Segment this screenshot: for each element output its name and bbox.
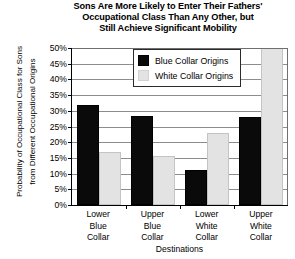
- y-axis-tick-label: 5%: [55, 184, 67, 194]
- y-axis-tick: [68, 158, 72, 159]
- y-axis-tick: [68, 48, 72, 49]
- bar: [77, 105, 99, 205]
- x-axis-category-label-line: Upper: [125, 209, 179, 221]
- y-axis-tick: [68, 127, 72, 128]
- y-axis-tick: [68, 95, 72, 96]
- x-axis-category-label-line: Blue: [71, 221, 125, 233]
- bar: [185, 170, 207, 205]
- x-axis-category-label-line: Lower: [71, 209, 125, 221]
- chart-title-line-3: Still Achieve Significant Mobility: [44, 23, 292, 34]
- y-axis-tick-label: 20%: [50, 137, 67, 147]
- x-axis-category-label-line: Collar: [125, 232, 179, 244]
- legend-entry: Blue Collar Origins: [138, 53, 233, 68]
- y-axis-tick: [68, 189, 72, 190]
- y-axis-tick-label: 40%: [50, 74, 67, 84]
- chart-title-line-2: Occupational Class Than Any Other, but: [44, 12, 292, 23]
- y-axis-tick-label: 0%: [55, 200, 67, 210]
- bar: [99, 152, 121, 205]
- bar-group: [234, 48, 288, 205]
- legend-entry: White Collar Origins: [138, 68, 233, 83]
- y-axis-tick: [68, 111, 72, 112]
- x-axis-category-label: UpperWhiteCollar: [234, 209, 288, 245]
- y-axis-tick-label: 35%: [50, 90, 67, 100]
- legend-swatch-blue-collar: [138, 55, 149, 66]
- bar: [131, 116, 153, 205]
- legend-entry-label: Blue Collar Origins: [155, 56, 228, 66]
- legend-entry-label: White Collar Origins: [155, 71, 233, 81]
- x-axis-category-label: LowerBlueCollar: [71, 209, 125, 245]
- bar: [153, 156, 175, 205]
- y-axis-tick-label: 15%: [50, 153, 67, 163]
- bar-group: [72, 48, 126, 205]
- y-axis-tick: [68, 205, 72, 206]
- y-axis-tick-label: 30%: [50, 106, 67, 116]
- y-axis-title: Probability of Occupational Class for So…: [0, 34, 26, 209]
- y-axis-tick: [68, 174, 72, 175]
- bar: [261, 48, 283, 205]
- x-axis-category-label-line: White: [180, 221, 234, 233]
- x-axis-category-label: UpperBlueCollar: [125, 209, 179, 245]
- x-axis-category-label-line: Collar: [234, 232, 288, 244]
- y-axis-tick: [68, 64, 72, 65]
- plot-right-border: [287, 48, 288, 205]
- y-axis-tick-label: 45%: [50, 59, 67, 69]
- chart-title: Sons Are More Likely to Enter Their Fath…: [44, 1, 292, 35]
- bar: [207, 133, 229, 205]
- x-axis-category-label-line: Lower: [180, 209, 234, 221]
- x-axis-category-label-line: Collar: [180, 232, 234, 244]
- x-axis-title: Destinations: [71, 244, 288, 254]
- y-axis-tick-label: 50%: [50, 43, 67, 53]
- bar-chart: Sons Are More Likely to Enter Their Fath…: [0, 0, 295, 259]
- y-axis-tick: [68, 142, 72, 143]
- y-axis-tick-label: 10%: [50, 169, 67, 179]
- chart-legend: Blue Collar OriginsWhite Collar Origins: [133, 49, 241, 87]
- y-axis-tick: [68, 79, 72, 80]
- x-axis-category-label: LowerWhiteCollar: [180, 209, 234, 245]
- chart-title-line-1: Sons Are More Likely to Enter Their Fath…: [44, 1, 292, 12]
- legend-swatch-white-collar: [138, 70, 149, 81]
- x-axis-category-label-line: White: [234, 221, 288, 233]
- y-axis-tick-label: 25%: [50, 122, 67, 132]
- x-axis-category-label-line: Blue: [125, 221, 179, 233]
- x-axis-category-label-line: Upper: [234, 209, 288, 221]
- x-axis-category-label-line: Collar: [71, 232, 125, 244]
- bar: [239, 117, 261, 205]
- x-axis-category-labels: LowerBlueCollarUpperBlueCollarLowerWhite…: [71, 209, 288, 245]
